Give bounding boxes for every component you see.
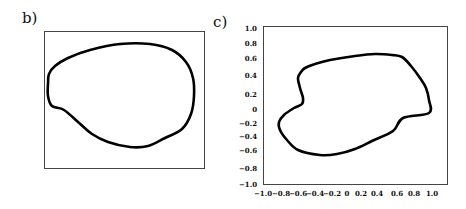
y-tick-label: 0.8 (245, 39, 257, 48)
y-tick-label: 0.2 (245, 90, 257, 99)
x-tick-label: −0.6 (289, 189, 307, 198)
y-tick-label: −1.0 (239, 180, 257, 189)
x-tick-label: 0.6 (391, 189, 403, 198)
panel-c-frame (264, 27, 448, 185)
figure-canvas: 1.00.80.60.40.20−0.2−0.4−0.6−0.8−1.0 −1.… (0, 0, 466, 209)
y-tick-label: 1.0 (245, 24, 257, 33)
x-tick-label: −0.4 (306, 189, 324, 198)
y-tick-label: 0.4 (245, 71, 257, 80)
x-tick-label: 0 (345, 189, 350, 198)
y-tick-label: −0.2 (239, 119, 257, 128)
y-tick-label: −0.8 (239, 164, 257, 173)
x-tick-label: −0.8 (272, 189, 290, 198)
y-tick-label: 0.6 (245, 54, 257, 63)
panel-b-frame (45, 32, 205, 169)
x-tick-label: 0.8 (408, 189, 420, 198)
x-tick-label: 1.0 (426, 189, 438, 198)
x-tick-label: 0.2 (355, 189, 367, 198)
y-tick-label: −0.4 (239, 132, 257, 141)
x-tick-label: 0.4 (371, 189, 383, 198)
x-tick-label: −0.2 (323, 189, 341, 198)
panel-c-x-axis-ticks: −1.0−0.8−0.6−0.4−0.200.20.40.60.81.0 (254, 189, 438, 198)
y-tick-label: 0 (252, 105, 257, 114)
y-tick-label: −0.6 (239, 146, 257, 155)
panel-b-contour (48, 43, 195, 147)
panel-c-y-axis-ticks: 1.00.80.60.40.20−0.2−0.4−0.6−0.8−1.0 (239, 24, 257, 189)
x-tick-label: −1.0 (254, 189, 272, 198)
panel-c-contour (279, 54, 431, 155)
